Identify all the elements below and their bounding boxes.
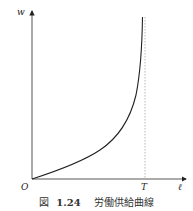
figure-title: 労働供給曲線 <box>94 197 154 208</box>
labor-supply-chart: w O T ℓ <box>0 0 193 211</box>
figure-label: 図 <box>39 197 49 208</box>
origin-label: O <box>21 182 29 192</box>
labor-supply-curve <box>32 17 143 179</box>
figure-caption: 図 1.24 労働供給曲線 <box>0 194 193 209</box>
x-tick-T: T <box>141 182 148 192</box>
figure-number: 1.24 <box>56 197 80 208</box>
y-axis-label: w <box>17 7 25 17</box>
x-axis-label: ℓ <box>178 182 182 192</box>
